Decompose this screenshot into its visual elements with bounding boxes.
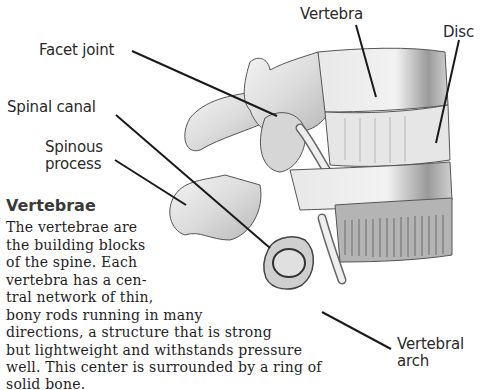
- body-line: solid bone.: [6, 376, 85, 390]
- body-line: but lightweight and withstands pressure: [6, 342, 302, 360]
- body-line: The vertebrae are: [6, 219, 137, 237]
- label-disc: Disc: [443, 24, 474, 41]
- disc: [325, 105, 450, 166]
- label-vertebral-arch-line2: arch: [397, 353, 429, 370]
- facet-joint: [260, 113, 305, 172]
- spinal-canal-cross-section: [273, 249, 305, 277]
- body-line: directions, a structure that is strong: [6, 324, 272, 342]
- body-line: vertebra has a cen-: [6, 272, 147, 290]
- label-vertebral-arch-line1: Vertebral: [397, 336, 464, 353]
- body-line: tral network of thin,: [6, 289, 153, 307]
- label-facet-joint: Facet joint: [39, 42, 114, 59]
- body-line: bony rods running in many: [6, 307, 203, 325]
- label-spinous-process-line2: process: [45, 156, 101, 173]
- label-vertebra: Vertebra: [300, 6, 363, 23]
- upper-vertebral-body: [318, 48, 448, 112]
- cut-section: [335, 198, 452, 262]
- label-spinous-process-line1: Spinous: [45, 139, 103, 156]
- body-line: well. This center is surrounded by a rin…: [6, 359, 322, 377]
- lower-spinous-process: [170, 175, 261, 240]
- sidebar-heading: Vertebrae: [6, 196, 96, 215]
- body-line: the building blocks: [6, 237, 145, 255]
- body-line: of the spine. Each: [6, 254, 137, 272]
- label-spinal-canal: Spinal canal: [7, 99, 96, 116]
